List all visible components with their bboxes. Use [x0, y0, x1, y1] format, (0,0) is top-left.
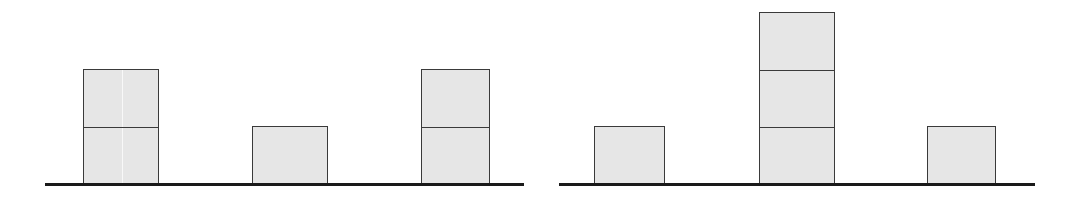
unit-block [594, 126, 665, 185]
unit-block [759, 12, 835, 71]
unit-block [759, 126, 835, 185]
unit-block [927, 126, 996, 185]
baseline [559, 183, 1035, 186]
unit-block [759, 69, 835, 128]
panel-right [0, 0, 1070, 200]
